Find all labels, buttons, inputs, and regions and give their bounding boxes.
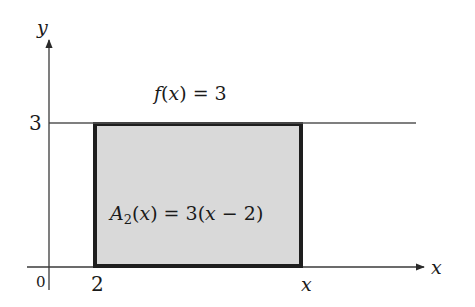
y-axis-label: y <box>36 16 48 38</box>
x-tick-2-label: 2 <box>91 272 104 296</box>
x-axis-label: x <box>431 256 442 278</box>
origin-label: 0 <box>36 273 46 291</box>
x-tick-x-label: x <box>301 273 312 295</box>
area-diagram: y x 0 3 2 x f(x) = 3 A2(x) = 3(x − 2) <box>0 0 475 307</box>
function-label: f(x) = 3 <box>152 82 227 104</box>
y-tick-3-label: 3 <box>29 111 42 135</box>
area-formula-label: A2(x) = 3(x − 2) <box>108 202 263 227</box>
area-rectangle <box>95 124 301 266</box>
